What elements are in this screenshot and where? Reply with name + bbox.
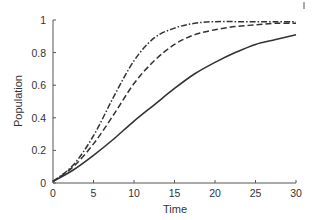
population-chart: 05101520253000.20.40.60.81 Time Populati…: [0, 0, 316, 220]
series-solid-line: [53, 35, 296, 182]
y-tick-label: 1: [40, 14, 46, 26]
x-tick-label: 10: [128, 187, 140, 199]
axes: 05101520253000.20.40.60.81: [31, 2, 304, 199]
x-tick-label: 5: [91, 187, 97, 199]
y-tick-label: 0.4: [31, 112, 46, 124]
x-tick-label: 30: [290, 187, 302, 199]
y-tick-label: 0: [40, 177, 46, 189]
x-axis-label: Time: [163, 203, 187, 215]
y-tick-label: 0.2: [31, 144, 46, 156]
x-tick-label: 0: [50, 187, 56, 199]
series-group: [53, 22, 296, 182]
x-tick-label: 25: [250, 187, 262, 199]
y-axis-label: Population: [12, 75, 24, 127]
y-tick-label: 0.6: [31, 79, 46, 91]
x-tick-label: 15: [169, 187, 181, 199]
y-tick-label: 0.8: [31, 47, 46, 59]
x-tick-label: 20: [209, 187, 221, 199]
